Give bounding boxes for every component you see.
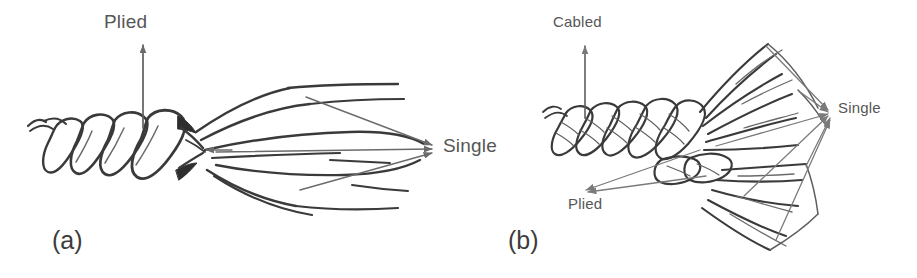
single-label-a: Single (443, 136, 497, 155)
panel-label-a: (a) (52, 228, 83, 253)
cabled-label-b: Cabled (553, 14, 602, 29)
single-label-b: Single (838, 100, 881, 115)
plied-label-a: Plied (104, 12, 147, 31)
panel-label-b: (b) (508, 228, 539, 253)
plied-label-b: Plied (568, 196, 602, 211)
figure-root: Plied Single (a) Cabled Plied Single (b) (0, 0, 917, 278)
